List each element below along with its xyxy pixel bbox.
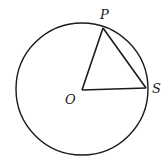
segment-os	[82, 88, 146, 90]
label-o: O	[65, 92, 76, 107]
label-s: S	[152, 81, 161, 96]
label-p: P	[99, 7, 109, 22]
circle-diagram: P O S	[0, 0, 168, 165]
segment-op	[82, 28, 103, 90]
